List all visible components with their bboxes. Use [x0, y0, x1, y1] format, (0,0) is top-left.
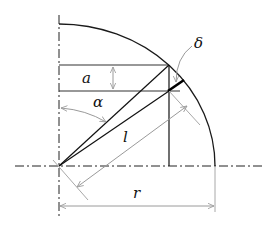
label-alpha: α	[93, 93, 103, 111]
l-dimension-arrow	[77, 106, 187, 187]
diagonal-to-lower-corner	[59, 91, 169, 166]
label-delta: δ	[194, 34, 203, 52]
label-a: a	[82, 69, 91, 87]
label-l: l	[123, 128, 128, 146]
label-r: r	[133, 184, 141, 202]
geometry-diagram: a α δ l r	[0, 0, 274, 225]
delta-leader	[176, 46, 192, 82]
diagonal-to-upper-corner	[59, 65, 169, 166]
